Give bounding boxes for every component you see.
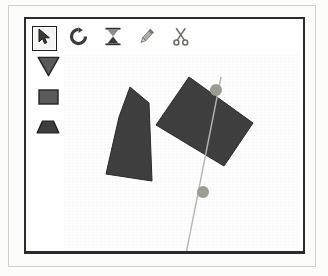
tool-scissors-button[interactable] — [168, 26, 193, 51]
pencil-icon — [137, 27, 156, 49]
rotate-ccw-icon — [69, 27, 88, 49]
triangle-down-icon — [37, 56, 60, 80]
scissors-icon — [172, 27, 190, 49]
tool-pencil-button[interactable] — [134, 26, 159, 51]
cut-handle-top[interactable] — [210, 84, 222, 96]
cut-handle-bottom[interactable] — [197, 186, 209, 198]
shape-piece-right[interactable] — [156, 77, 253, 166]
toolbar — [32, 23, 300, 53]
tool-flip-button[interactable] — [100, 26, 125, 51]
drawing-canvas[interactable] — [64, 53, 299, 251]
application-window — [0, 0, 328, 276]
rectangle-icon — [38, 89, 59, 108]
tool-select-button[interactable] — [32, 26, 57, 51]
shape-piece-left[interactable] — [106, 87, 152, 181]
cursor-arrow-icon — [37, 28, 52, 48]
app-window-frame — [24, 17, 305, 254]
shape-triangle-button[interactable] — [35, 57, 61, 79]
trapezoid-icon — [36, 120, 60, 137]
tool-rotate-button[interactable] — [66, 26, 91, 51]
shape-rectangle-button[interactable] — [35, 87, 61, 109]
canvas-svg[interactable] — [64, 53, 299, 251]
shape-trapezoid-button[interactable] — [35, 117, 61, 139]
hourglass-flip-icon — [104, 27, 122, 49]
shape-palette — [33, 57, 63, 139]
